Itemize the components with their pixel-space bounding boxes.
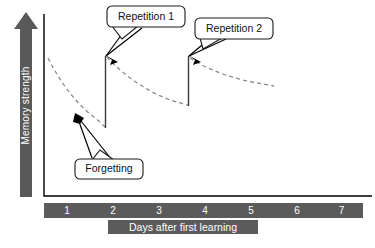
x-tick-4: 4 [182,203,228,218]
forgetting-leader-b [77,116,112,160]
repetition-lines [106,56,189,128]
forgetting-leader-a [77,116,92,158]
curve-segment-3 [190,58,274,86]
x-tick-3: 3 [136,203,182,218]
x-axis-tick-bar: 1 2 3 4 5 6 7 [44,203,363,218]
callout-repetition-2-tail [200,38,222,49]
x-tick-2: 2 [90,203,136,218]
callout-repetition-2-label: Repetition 2 [206,22,262,34]
forgetting-curve-figure: Repetition 1 Repetition 2 Forgetting Mem… [0,0,375,248]
callout-repetition-1[interactable]: Repetition 1 [107,6,185,39]
curve-segment-2 [107,57,188,105]
callout-repetition-1-tail [112,26,138,39]
x-axis-title: Days after first learning [108,220,258,234]
x-tick-1: 1 [44,203,90,218]
x-tick-7: 7 [320,203,363,218]
y-axis-title: Memory strength [20,59,31,153]
x-tick-5: 5 [228,203,274,218]
repetition-1-arrowhead [105,55,118,65]
callout-repetition-1-label: Repetition 1 [118,10,174,22]
callout-forgetting[interactable]: Forgetting [75,150,143,179]
forgetting-curves [48,57,274,127]
callout-forgetting-label: Forgetting [85,162,132,174]
callout-repetition-2[interactable]: Repetition 2 [195,18,273,49]
x-tick-6: 6 [274,203,320,218]
